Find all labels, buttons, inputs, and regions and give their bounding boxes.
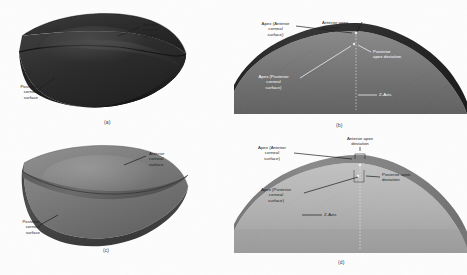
panel-d: Apex (Anterior corneal surface) Anterior… xyxy=(234,137,467,275)
posterior-apex-marker-b xyxy=(353,43,355,45)
label-line: corneal xyxy=(24,89,38,94)
label-z-axis-d: Z-Axis xyxy=(324,212,354,217)
panel-c-graphic xyxy=(0,137,234,275)
label-posterior-corneal-surface-a: Posterior corneal surface xyxy=(0,84,38,100)
label-line: apex deviation xyxy=(373,54,401,59)
label-line: Apex (Posterior xyxy=(258,74,288,79)
label-line: surface) xyxy=(268,32,284,37)
anterior-apex-marker-d xyxy=(359,164,362,167)
label-line: surface xyxy=(26,230,40,235)
label-apex-anterior-corneal-surface-b: Apex (Anterior corneal surface) xyxy=(248,21,303,37)
label-line: corneal xyxy=(268,26,282,31)
label-line: deviation xyxy=(351,141,369,146)
panel-caption-a: (a) xyxy=(104,119,110,125)
label-line: Posterior xyxy=(20,84,38,89)
label-line: Anterior apex xyxy=(347,137,373,141)
label-line: Apex (Anterior xyxy=(258,145,286,150)
panel-a-graphic xyxy=(0,0,234,137)
label-line: deviation xyxy=(322,25,340,30)
panel-b: Apex (Anterior corneal surface) Anterior… xyxy=(234,0,467,137)
corneal-surface-figure: Anterior corneal surface Posterior corne… xyxy=(0,0,467,275)
posterior-apex-marker-d xyxy=(357,175,359,177)
panel-a: Anterior corneal surface Posterior corne… xyxy=(0,0,234,137)
label-line: Posterior xyxy=(22,219,40,224)
panel-caption-d: (d) xyxy=(338,259,344,265)
label-posterior-apex-deviation-d: Posterior apex deviation xyxy=(382,172,438,183)
label-line: corneal xyxy=(143,27,157,32)
label-apex-posterior-corneal-surface-d: Apex (Posterior corneal surface) xyxy=(248,187,304,203)
label-line: Anterior xyxy=(149,151,164,156)
label-line: Posterior apex xyxy=(382,172,410,177)
label-apex-anterior-corneal-surface-d: Apex (Anterior corneal surface) xyxy=(244,145,300,161)
label-line: surface) xyxy=(268,198,284,203)
label-line: corneal xyxy=(26,224,40,229)
anterior-apex-marker-b xyxy=(355,32,358,35)
label-z-axis-b: Z-Axis xyxy=(379,92,409,97)
label-line: Posterior xyxy=(373,49,391,54)
label-line: Apex (Posterior xyxy=(261,187,291,192)
panel-c: Anterior corneal surface Posterior corne… xyxy=(0,137,234,275)
label-line: surface xyxy=(24,95,38,100)
label-posterior-apex-deviation-b: Posterior apex deviation xyxy=(373,49,428,60)
panel-caption-b: (b) xyxy=(336,122,342,128)
label-line: surface) xyxy=(264,156,280,161)
label-line: corneal xyxy=(265,150,279,155)
label-line: surface xyxy=(143,33,157,38)
label-apex-posterior-corneal-surface-b: Apex (Posterior corneal surface) xyxy=(246,74,301,90)
label-anterior-corneal-surface-a: Anterior corneal surface xyxy=(143,22,189,38)
label-line: surface) xyxy=(266,85,282,90)
label-anterior-corneal-surface-c: Anterior corneal surface xyxy=(149,151,195,167)
label-line: Anterior xyxy=(143,22,158,27)
label-line: corneal xyxy=(266,79,280,84)
label-line: Anterior apex xyxy=(322,20,348,25)
label-line: surface xyxy=(149,162,163,167)
label-anterior-apex-deviation-d: Anterior apex deviation xyxy=(334,137,386,147)
label-line: Apex (Anterior xyxy=(261,21,289,26)
label-line: corneal xyxy=(149,156,163,161)
label-anterior-apex-deviation-b: Anterior apex deviation xyxy=(322,20,372,31)
panel-caption-c: (c) xyxy=(103,247,109,253)
label-line: deviation xyxy=(382,177,400,182)
label-line: corneal xyxy=(269,192,283,197)
label-posterior-corneal-surface-c: Posterior corneal surface xyxy=(0,219,40,235)
